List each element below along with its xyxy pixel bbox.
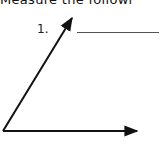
angle-figure [0,0,161,146]
slanted-ray [3,18,72,131]
